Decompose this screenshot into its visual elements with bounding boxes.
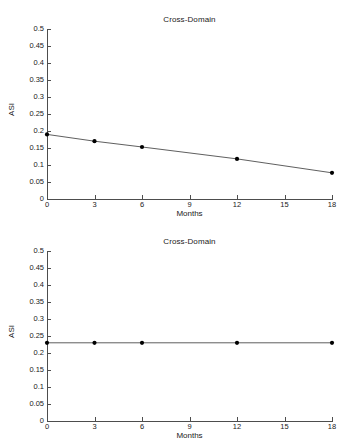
data-point-marker [45,132,49,136]
series-line [47,134,332,172]
data-point-marker [330,171,334,175]
data-point-marker [140,145,144,149]
data-point-marker [235,341,239,345]
data-point-marker [92,139,96,143]
data-series-bottom [0,222,356,443]
data-point-marker [235,157,239,161]
data-point-marker [92,341,96,345]
data-point-marker [140,341,144,345]
data-series-top [0,0,356,221]
data-point-marker [45,341,49,345]
figure: Cross-Domain ASI Months 00.050.10.150.20… [0,0,356,443]
chart-panel-bottom: Cross-Domain ASI Months 00.050.10.150.20… [0,222,356,443]
chart-panel-top: Cross-Domain ASI Months 00.050.10.150.20… [0,0,356,221]
data-point-marker [330,341,334,345]
